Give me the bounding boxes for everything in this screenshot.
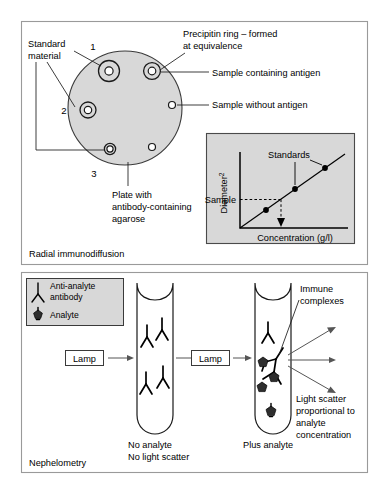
legend-analyte: Analyte bbox=[50, 310, 79, 320]
scatter-label-line2: proportional to bbox=[296, 406, 355, 416]
tube-no-analyte bbox=[137, 283, 173, 434]
well-sample-without-antigen-lower bbox=[149, 144, 156, 151]
panel-caption-nephelometry: Nephelometry bbox=[29, 458, 87, 468]
well-number-2: 2 bbox=[61, 105, 66, 116]
tube-left-caption-line1: No analyte bbox=[128, 440, 172, 450]
agar-plate bbox=[68, 51, 182, 165]
plate-label-line2: antibody-containing bbox=[112, 202, 192, 212]
immune-complexes-label-line2: complexes bbox=[300, 296, 344, 306]
plate-label-line3: agarose bbox=[112, 214, 145, 224]
well-number-1: 1 bbox=[90, 41, 95, 52]
plate-label-line1: Plate with bbox=[112, 190, 152, 200]
tube-plus-analyte bbox=[255, 283, 291, 434]
lamp-right: Lamp bbox=[192, 351, 230, 366]
immune-complexes-label-line1: Immune bbox=[300, 284, 333, 294]
lamp-right-label: Lamp bbox=[199, 354, 222, 364]
standard-curve-chart: Standards Sample Diameter2 Concentration… bbox=[205, 134, 355, 244]
panel-caption-radial-immunodiffusion: Radial immunodiffusion bbox=[29, 249, 124, 259]
chart-point-standard-1 bbox=[263, 207, 269, 213]
standard-material-label-line2: material bbox=[28, 51, 61, 61]
tube-right-caption: Plus analyte bbox=[243, 440, 293, 450]
well-number-3: 3 bbox=[91, 168, 96, 179]
legend-antibody-line1: Anti-analyte bbox=[50, 281, 96, 291]
precipitin-ring-label-line1: Precipitin ring – formed bbox=[183, 29, 277, 39]
sample-without-antigen-label: Sample without antigen bbox=[212, 100, 308, 110]
legend-antibody-line2: antibody bbox=[50, 292, 83, 302]
precipitin-ring-label-line2: at equivalence bbox=[183, 41, 242, 51]
tube-left-caption-line2: No light scatter bbox=[128, 452, 189, 462]
chart-standards-label: Standards bbox=[268, 150, 310, 160]
scatter-label-line1: Light scatter bbox=[296, 394, 346, 404]
chart-point-standard-3 bbox=[322, 165, 328, 171]
well-sample-without-antigen-right bbox=[169, 102, 176, 109]
standard-material-label-line1: Standard bbox=[28, 39, 65, 49]
chart-xlabel: Concentration (g/l) bbox=[257, 233, 333, 243]
immunoassay-figure: 1 2 3 Standard material Precipitin ring … bbox=[0, 0, 390, 494]
chart-point-standard-2 bbox=[292, 186, 298, 192]
scatter-label-line3: analyte bbox=[296, 418, 326, 428]
lamp-left: Lamp bbox=[66, 351, 104, 366]
chart-ylabel: Diameter2 bbox=[218, 172, 230, 213]
nephelometry-legend: Anti-analyte antibody Analyte bbox=[27, 279, 124, 326]
lamp-left-label: Lamp bbox=[73, 354, 96, 364]
scatter-label-line4: concentration bbox=[296, 430, 351, 440]
sample-with-antigen-label: Sample containing antigen bbox=[212, 68, 320, 78]
